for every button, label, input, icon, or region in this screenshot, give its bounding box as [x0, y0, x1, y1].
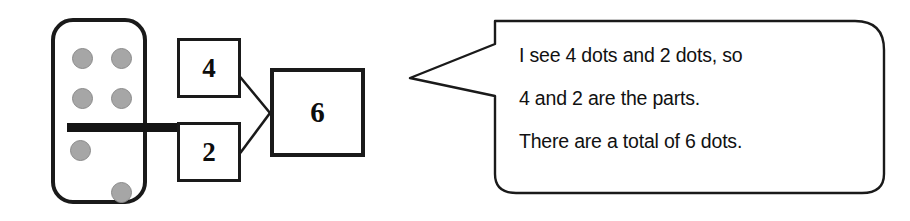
speech-bubble-text: I see 4 dots and 2 dots, so 4 and 2 are …: [519, 34, 849, 163]
domino-pip-middle-right: [111, 88, 132, 109]
number-bond-total-value: 6: [310, 96, 325, 129]
domino-pip-bottom-lower-right: [111, 182, 132, 203]
worksheet-diagram: 4 2 6 I see 4 dots and 2 dots, so 4 and …: [0, 0, 910, 221]
domino-pip-middle-left: [72, 88, 93, 109]
number-bond-part-b-value: 2: [202, 137, 216, 168]
number-bond-part-a-value: 4: [202, 53, 216, 84]
connector-line-part-b: [241, 113, 270, 152]
number-bond-part-a-box: 4: [177, 38, 241, 98]
number-bond-part-b-box: 2: [177, 122, 241, 182]
connector-line-part-a: [241, 78, 270, 113]
speech-bubble-line-2: 4 and 2 are the parts.: [519, 77, 849, 120]
domino-pip-top-right: [111, 48, 132, 69]
domino-pip-top-left: [72, 48, 93, 69]
domino-pip-bottom-upper-left: [70, 140, 91, 161]
domino-tile: [51, 18, 147, 204]
number-bond-total-box: 6: [270, 68, 365, 157]
speech-bubble-line-3: There are a total of 6 dots.: [519, 120, 849, 163]
speech-bubble-line-1: I see 4 dots and 2 dots, so: [519, 34, 849, 77]
domino-divider-bar: [67, 123, 179, 132]
